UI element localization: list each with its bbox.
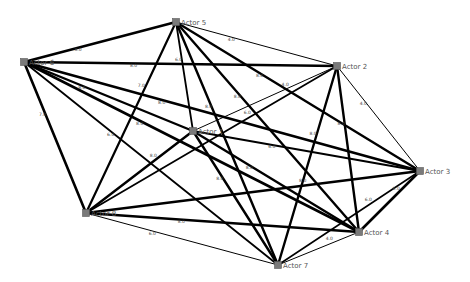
edge-weight-label: 8.0 [150, 153, 157, 158]
edge-weight-label: 8.0 [309, 131, 316, 136]
edge-weight-label: 6.0 [365, 197, 372, 202]
edge-weight-label: 8.0 [256, 73, 263, 78]
edge [24, 62, 337, 66]
node-actor-6[interactable]: Actor 6 [21, 59, 55, 67]
edge-weight-label: 8.0 [178, 219, 185, 224]
node-actor-5[interactable]: Actor 5 [173, 19, 207, 27]
edge-weight-label: 8.0 [158, 100, 165, 105]
edge [24, 62, 420, 171]
node-marker[interactable] [83, 210, 90, 217]
edge-weight-label: 7.0 [138, 83, 145, 88]
node-label: Actor 6 [29, 59, 55, 67]
node-marker[interactable] [275, 262, 282, 269]
node-marker[interactable] [173, 19, 180, 26]
edge-weight-label: 4.0 [326, 236, 333, 241]
edge-weight-label: 4.0 [360, 101, 367, 106]
edge [86, 213, 359, 232]
node-label: Actor 3 [425, 168, 450, 176]
edge-weight-label: 6.0 [244, 110, 251, 115]
node-label: Actor 2 [342, 63, 367, 71]
edge-weight-label: 6.0 [175, 57, 182, 62]
edge [176, 22, 337, 66]
edge-weight-label: 8.0 [338, 121, 345, 126]
edge-weight-label: 8.0 [216, 176, 223, 181]
node-actor-3[interactable]: Actor 3 [417, 168, 451, 176]
node-label: Actor 7 [283, 262, 308, 270]
network-diagram: 8.08.08.08.07.08.06.04.06.08.07.08.08.04… [0, 0, 470, 282]
edge-weight-label: 6.0 [268, 144, 275, 149]
node-label: Actor 5 [181, 19, 206, 27]
edge [24, 62, 359, 232]
node-actor-1[interactable]: Actor 1 [190, 128, 224, 136]
edge-weight-label: 8.0 [75, 47, 82, 52]
edge [278, 232, 359, 265]
node-actor-2[interactable]: Actor 2 [334, 63, 368, 71]
node-marker[interactable] [417, 168, 424, 175]
node-label: Actor 1 [198, 128, 223, 136]
edge-weight-label: 8.0 [78, 85, 85, 90]
edge-weight-label: 4.0 [228, 37, 235, 42]
edge [24, 22, 176, 62]
edge-weight-label: 7.0 [39, 112, 46, 117]
edge-weight-label: 6.0 [149, 231, 156, 236]
node-actor-8[interactable]: Actor 8 [83, 210, 117, 218]
edge-weight-label: 4.0 [282, 82, 289, 87]
node-marker[interactable] [356, 229, 363, 236]
node-marker[interactable] [334, 63, 341, 70]
edge-weight-label: 8.0 [130, 63, 137, 68]
edge-weight-label: 6.0 [107, 132, 114, 137]
node-label: Actor 8 [91, 210, 116, 218]
edge-weight-label: 8.0 [393, 186, 400, 191]
edge-weight-label: 8.0 [246, 165, 253, 170]
node-marker[interactable] [190, 128, 197, 135]
node-actor-7[interactable]: Actor 7 [275, 262, 309, 270]
node-label: Actor 4 [364, 229, 390, 237]
node-actor-4[interactable]: Actor 4 [356, 229, 390, 237]
edge-weight-label: 8.0 [205, 104, 212, 109]
node-marker[interactable] [21, 59, 28, 66]
edge-weight-label: 8.0 [299, 178, 306, 183]
edge-weight-label: 8.0 [136, 121, 143, 126]
edge-weight-label: 8.0 [234, 94, 241, 99]
